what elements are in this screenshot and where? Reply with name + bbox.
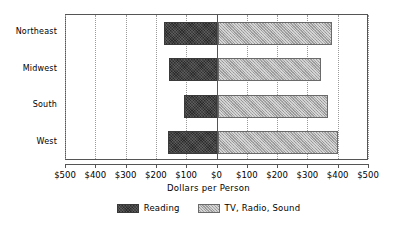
bar-segment-reading (164, 22, 217, 45)
chart-legend: ReadingTV, Radio, Sound (0, 203, 417, 213)
bar-segment-reading (169, 58, 217, 81)
x-tick (247, 164, 248, 168)
x-tick (186, 164, 187, 168)
legend-swatch-icon (117, 204, 139, 213)
legend-item: TV, Radio, Sound (198, 203, 301, 213)
x-tick (126, 164, 127, 168)
gridline (368, 15, 369, 159)
x-axis-title: Dollars per Person (0, 183, 417, 193)
bar-segment-tv-radio-sound (218, 131, 339, 154)
bar-chart: NortheastMidwestSouthWest $500$400$300$2… (0, 0, 417, 232)
bar-group (66, 58, 367, 81)
x-tick (217, 164, 218, 168)
bar-segment-tv-radio-sound (218, 95, 328, 118)
bar-segment-reading (168, 131, 218, 154)
x-tick (277, 164, 278, 168)
bar-group (66, 131, 367, 154)
legend-swatch-icon (198, 204, 220, 213)
legend-item: Reading (117, 203, 180, 213)
bar-group (66, 95, 367, 118)
bar-group (66, 22, 367, 45)
bar-segment-tv-radio-sound (218, 22, 333, 45)
x-tick (95, 164, 96, 168)
x-tick-label: $500 (348, 170, 388, 180)
x-tick (368, 164, 369, 168)
bar-segment-tv-radio-sound (218, 58, 322, 81)
legend-label: Reading (144, 203, 180, 213)
x-tick (307, 164, 308, 168)
x-tick (338, 164, 339, 168)
bar-segment-reading (184, 95, 218, 118)
x-tick (65, 164, 66, 168)
y-axis-label-northeast: Northeast (0, 27, 57, 36)
y-axis-label-south: South (0, 100, 57, 109)
y-axis-label-west: West (0, 137, 57, 146)
plot-area (65, 14, 368, 160)
legend-label: TV, Radio, Sound (225, 203, 301, 213)
y-axis-label-midwest: Midwest (0, 64, 57, 73)
x-tick (156, 164, 157, 168)
